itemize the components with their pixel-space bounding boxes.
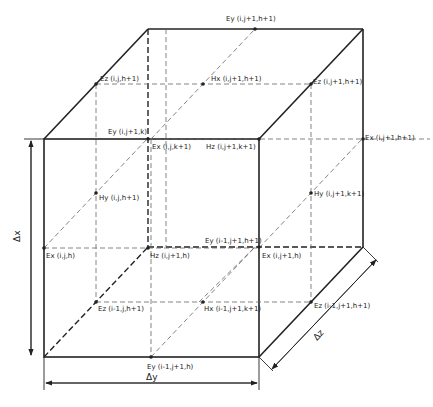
label-ex-top-left: Ex (i,j,k+1) <box>152 143 191 151</box>
dimension-lines <box>24 139 378 390</box>
label-ex-top-right: Ex (i,j+1,h+1) <box>365 134 415 142</box>
yee-cell-diagram: Ey (i,j+1,h+1) Ez (i,j,h+1) Hx (i,j+1,h+… <box>0 0 433 407</box>
label-ez-bottom-right: Ez (i-1,j+1,h+1) <box>314 302 370 310</box>
label-ey-top: Ey (i,j+1,h+1) <box>226 15 276 23</box>
label-hy-left: Hy (i,j,h+1) <box>99 194 139 202</box>
label-ez-back-right: Ez (i,j+1,h+1) <box>313 78 362 86</box>
label-hx-bottom: Hx (i-1,j+1,k+1) <box>204 305 261 313</box>
label-ey-bottom: Ey (i-1,j+1,h) <box>147 363 193 371</box>
label-ex-right: Ex (i,j+1,h) <box>262 252 301 260</box>
label-hz-top-right: Hz (i,j+1,k+1) <box>206 143 256 151</box>
label-delta-y: Δy <box>146 372 157 382</box>
label-ey-mid: Ey (i-1,j+1,h+1) <box>205 237 262 245</box>
label-hy-right: Hy (i,j+1,k+1) <box>314 190 364 198</box>
label-ez-back-left: Ez (i,j,h+1) <box>100 75 139 83</box>
label-hx-top: Hx (i,j+1,h+1) <box>211 75 262 83</box>
label-ey-front-top: Ey (i,j+1,k) <box>108 128 147 136</box>
label-delta-x: Δx <box>12 231 22 242</box>
label-ez-bottom-left: Ez (i-1,j,h+1) <box>98 305 144 313</box>
cube-drawing <box>0 0 433 407</box>
label-ex-left: Ex (i,j,h) <box>46 252 75 260</box>
label-hz-mid: Hz (i,j+1,h) <box>150 252 190 260</box>
